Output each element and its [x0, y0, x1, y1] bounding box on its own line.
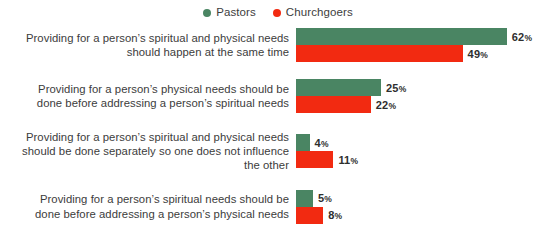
category-label-line: the other: [0, 158, 289, 172]
category-label-line: should be done separately so one does no…: [0, 144, 289, 158]
chart-group: Providing for a person’s spiritual and p…: [0, 28, 556, 62]
bar-row-pastors: 25%: [296, 79, 556, 96]
bar-pastors: [296, 190, 313, 207]
category-label-line: Providing for a person’s spiritual and p…: [0, 31, 289, 45]
category-label-line: Providing for a person’s spiritual needs…: [0, 192, 289, 206]
legend-swatch-churchgoers-icon: [273, 9, 281, 17]
bar-value-pastors: 5%: [313, 192, 332, 204]
category-label: Providing for a person’s spiritual and p…: [0, 130, 296, 173]
category-label: Providing for a person’s physical needs …: [0, 82, 296, 110]
percent-sign: %: [350, 156, 358, 166]
bar-churchgoers: [296, 96, 371, 113]
bar-churchgoers: [296, 151, 333, 168]
bar-churchgoers: [296, 207, 323, 224]
percent-sign: %: [335, 211, 343, 221]
category-label-line: Providing for a person’s spiritual and p…: [0, 130, 289, 144]
category-label: Providing for a person’s spiritual needs…: [0, 192, 296, 220]
bar-row-pastors: 4%: [296, 134, 556, 151]
bar-value-pastors: 62%: [507, 31, 532, 43]
percent-sign: %: [324, 194, 332, 204]
bar-value-pastors: 25%: [381, 82, 406, 94]
bar-value-churchgoers: 11%: [333, 154, 358, 166]
bar-value-churchgoers: 49%: [463, 48, 488, 60]
bar-pastors: [296, 28, 507, 45]
bar-row-churchgoers: 22%: [296, 96, 556, 113]
chart-legend: Pastors Churchgoers: [0, 0, 556, 22]
bar-pair: 4% 11%: [296, 134, 556, 168]
bar-row-churchgoers: 11%: [296, 151, 556, 168]
legend-label-pastors: Pastors: [216, 7, 256, 19]
category-label-line: should happen at the same time: [0, 45, 289, 59]
legend-item-pastors: Pastors: [203, 7, 256, 19]
bar-pair: 5% 8%: [296, 190, 556, 224]
category-label: Providing for a person’s spiritual and p…: [0, 31, 296, 59]
chart-group: Providing for a person’s spiritual and p…: [0, 130, 556, 173]
category-label-line: Providing for a person’s physical needs …: [0, 82, 289, 96]
percent-sign: %: [399, 84, 407, 94]
chart-group: Providing for a person’s physical needs …: [0, 79, 556, 113]
bar-row-pastors: 62%: [296, 28, 556, 45]
horizontal-bar-chart: Providing for a person’s spiritual and p…: [0, 22, 556, 224]
percent-sign: %: [480, 50, 488, 60]
percent-sign: %: [524, 33, 532, 43]
percent-sign: %: [388, 101, 396, 111]
percent-sign: %: [321, 139, 329, 149]
bar-value-pastors: 4%: [310, 137, 329, 149]
chart-group: Providing for a person’s spiritual needs…: [0, 190, 556, 224]
bar-pair: 25% 22%: [296, 79, 556, 113]
category-label-line: done before addressing a person’s physic…: [0, 207, 289, 221]
bar-pair: 62% 49%: [296, 28, 556, 62]
bar-pastors: [296, 79, 381, 96]
legend-item-churchgoers: Churchgoers: [273, 7, 353, 19]
bar-row-pastors: 5%: [296, 190, 556, 207]
bar-value-churchgoers: 22%: [371, 99, 396, 111]
legend-swatch-pastors-icon: [203, 9, 211, 17]
bar-churchgoers: [296, 45, 463, 62]
bar-value-churchgoers: 8%: [323, 209, 342, 221]
legend-label-churchgoers: Churchgoers: [286, 7, 353, 19]
bar-row-churchgoers: 49%: [296, 45, 556, 62]
bar-row-churchgoers: 8%: [296, 207, 556, 224]
category-label-line: done before addressing a person’s spirit…: [0, 96, 289, 110]
bar-pastors: [296, 134, 310, 151]
